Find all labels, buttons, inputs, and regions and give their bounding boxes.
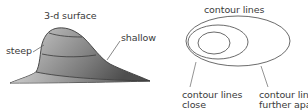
contour-diagram: 3-d surface steep shallow contour lines … — [0, 0, 308, 111]
contour-title: contour lines — [204, 5, 264, 15]
close-leader — [190, 62, 196, 87]
inner-contour — [198, 32, 230, 54]
surface-title: 3-d surface — [44, 11, 97, 21]
close-label: contour lines close — [182, 90, 252, 110]
shallow-label: shallow — [121, 33, 156, 43]
apart-leader — [261, 66, 268, 87]
outer-contour — [186, 16, 290, 66]
contour-map — [186, 16, 290, 87]
shallow-leader — [107, 41, 120, 60]
apart-label-line2: further apart — [259, 100, 308, 110]
steep-label: steep — [6, 46, 32, 56]
apart-label: contour lines further apart — [259, 90, 308, 110]
close-label-line2: close — [182, 100, 252, 110]
